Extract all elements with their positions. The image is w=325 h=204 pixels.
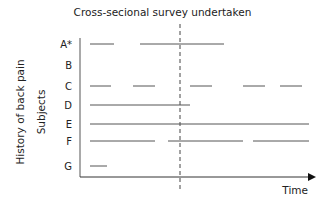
x-axis-label: Time [281,184,308,196]
x-axis-arrow-icon [308,173,316,181]
subject-label: F [66,136,72,147]
subject-label: C [65,81,72,92]
subject-label: E [66,119,72,130]
timeline-diagram: History of back pain Subjects Time A*BCD… [0,0,325,204]
subject-label: D [64,100,72,111]
subject-label: A* [60,39,72,50]
y-axis-label-outer: History of back pain [14,59,26,164]
y-axis-label-inner: Subjects [35,90,47,135]
subject-label: B [65,60,72,71]
subject-label: G [64,161,72,172]
